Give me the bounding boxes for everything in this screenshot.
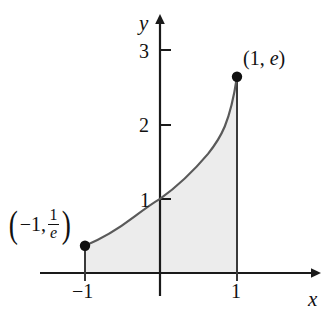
point-marker-left — [80, 241, 90, 251]
point-label-left-open-paren: ( — [9, 209, 18, 240]
y-axis-arrowhead — [155, 14, 165, 24]
x-tick-label-neg-1: −1 — [72, 281, 93, 301]
point-label-right-prefix: (1, — [243, 47, 270, 69]
point-marker-right — [232, 72, 242, 82]
y-axis-label: y — [139, 13, 148, 34]
y-tick-label-2: 2 — [139, 115, 149, 135]
point-label-left: ( −1, 1 e ) — [7, 207, 73, 242]
y-tick-label-1: 1 — [140, 190, 150, 210]
fraction-numerator: 1 — [48, 207, 58, 224]
point-label-left-close-paren: ) — [62, 209, 71, 240]
point-label-right-suffix: ) — [279, 47, 286, 69]
point-label-left-x-value: −1, — [20, 214, 46, 234]
x-tick-label-1: 1 — [231, 281, 241, 301]
point-label-right-variable: e — [270, 47, 279, 69]
point-label-right: (1, e) — [243, 48, 285, 68]
x-axis-label: x — [308, 289, 317, 310]
x-axis-arrowhead — [311, 268, 321, 278]
fraction-denominator: e — [49, 225, 58, 242]
point-label-left-fraction: 1 e — [48, 207, 59, 242]
exponential-area-figure: y x 1 2 3 −1 1 (1, e) ( −1, 1 e ) — [0, 0, 331, 325]
y-tick-label-3: 3 — [139, 41, 149, 61]
